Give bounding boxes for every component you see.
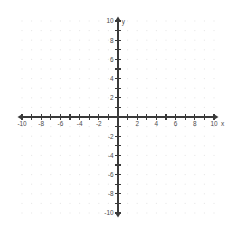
grid-dot [194, 88, 195, 89]
x-axis-tick-label: -8 [38, 120, 44, 127]
grid-dot [127, 88, 128, 89]
grid-dot [137, 107, 138, 108]
grid-dot [41, 203, 42, 204]
grid-dot [98, 136, 99, 137]
x-axis-tick-label: 8 [193, 120, 197, 127]
grid-dot [89, 203, 90, 204]
grid-dot [60, 174, 61, 175]
grid-dot [213, 49, 214, 50]
grid-dot [31, 164, 32, 165]
grid-dot [79, 136, 80, 137]
grid-dot [79, 212, 80, 213]
grid-dot [89, 78, 90, 79]
grid-dot [156, 49, 157, 50]
grid-dot [69, 20, 70, 21]
grid-dot [156, 136, 157, 137]
grid-dot [156, 107, 157, 108]
grid-dot [175, 155, 176, 156]
grid-dot [31, 203, 32, 204]
grid-dot [98, 78, 99, 79]
grid-dot [213, 203, 214, 204]
grid-dot [204, 49, 205, 50]
grid-dot [127, 212, 128, 213]
grid-dot [146, 30, 147, 31]
grid-dot [50, 164, 51, 165]
grid-dot [156, 78, 157, 79]
grid-dot [194, 107, 195, 108]
grid-dot [175, 193, 176, 194]
grid-dot [165, 164, 166, 165]
grid-dot [60, 59, 61, 60]
grid-dot [185, 78, 186, 79]
grid-dot [204, 30, 205, 31]
grid-dot [213, 20, 214, 21]
grid-dot [69, 30, 70, 31]
grid-dot [108, 203, 109, 204]
grid-dot [41, 97, 42, 98]
grid-dot [108, 164, 109, 165]
y-axis-name-label: y [122, 18, 126, 26]
grid-dot [21, 20, 22, 21]
grid-dot [60, 107, 61, 108]
grid-dot [137, 164, 138, 165]
grid-dot [69, 164, 70, 165]
grid-dot [69, 212, 70, 213]
grid-dot [146, 174, 147, 175]
grid-dot [165, 97, 166, 98]
x-axis-name-label: x [221, 120, 225, 127]
grid-dot [21, 78, 22, 79]
grid-dot [89, 59, 90, 60]
grid-dot [213, 174, 214, 175]
grid-dot [165, 136, 166, 137]
grid-dot [41, 212, 42, 213]
grid-dot [69, 97, 70, 98]
grid-dot [21, 184, 22, 185]
grid-dot [185, 212, 186, 213]
grid-dot [50, 174, 51, 175]
grid-dot [194, 212, 195, 213]
grid-dot [194, 155, 195, 156]
grid-dot [204, 88, 205, 89]
grid-dot [21, 59, 22, 60]
grid-dot [194, 145, 195, 146]
grid-dot [137, 155, 138, 156]
y-axis-tick-label: 2 [110, 94, 114, 101]
grid-dot [89, 68, 90, 69]
grid-dot [50, 49, 51, 50]
grid-dot [213, 164, 214, 165]
grid-dot [127, 203, 128, 204]
grid-dot [98, 193, 99, 194]
grid-dot [127, 193, 128, 194]
grid-dot [21, 68, 22, 69]
x-axis-tick-label: 10 [210, 120, 218, 127]
grid-dot [98, 155, 99, 156]
grid-dot [146, 193, 147, 194]
grid-dot [108, 145, 109, 146]
grid-dot [69, 193, 70, 194]
grid-dot [146, 145, 147, 146]
grid-dot [204, 136, 205, 137]
grid-dot [146, 107, 147, 108]
grid-dot [185, 59, 186, 60]
grid-dot [69, 184, 70, 185]
grid-dot [127, 30, 128, 31]
grid-dot [89, 174, 90, 175]
grid-dot [89, 30, 90, 31]
grid-dot [165, 212, 166, 213]
x-axis-tick-label: 2 [135, 120, 139, 127]
axis-names-layer: xy [122, 18, 225, 127]
grid-dot [204, 155, 205, 156]
grid-dot [146, 184, 147, 185]
y-axis-tick-label: -4 [108, 152, 114, 159]
y-axis-tick-label: -6 [108, 171, 114, 178]
grid-dot [98, 145, 99, 146]
grid-dot [41, 78, 42, 79]
grid-dot [175, 68, 176, 69]
grid-dot [31, 193, 32, 194]
grid-dot [21, 174, 22, 175]
grid-dot [31, 59, 32, 60]
x-axis-tick-label: -10 [17, 120, 27, 127]
grid-dot [137, 193, 138, 194]
grid-dot [165, 155, 166, 156]
grid-dot [60, 155, 61, 156]
